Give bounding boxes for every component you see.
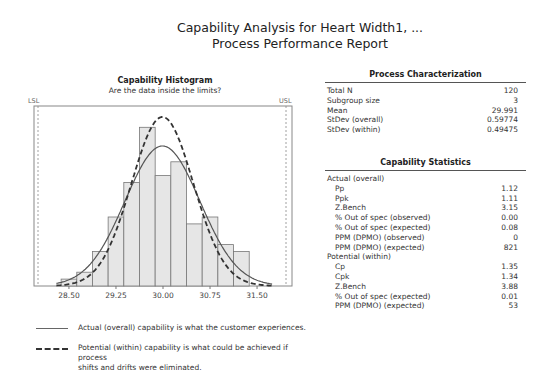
- capability-histogram: LSL USL 28.5029.2530.0030.7531.50: [0, 0, 310, 310]
- stat-label: % Out of spec (observed): [325, 213, 431, 223]
- stat-row: PPM (DPMO) (observed)0: [325, 233, 526, 243]
- stat-row: % Out of spec (expected)0.01: [325, 292, 526, 302]
- actual-overall-header: Actual (overall): [325, 174, 526, 184]
- stat-value: 821: [504, 243, 518, 253]
- legend-potential-text: Potential (within) capability is what co…: [78, 343, 308, 373]
- x-tick-label: 30.00: [152, 291, 174, 300]
- stat-label: PPM (DPMO) (expected): [325, 243, 424, 253]
- stat-row: % Out of spec (expected)0.08: [325, 223, 526, 233]
- stat-label: Pp: [325, 184, 344, 194]
- histogram-bar: [202, 217, 218, 286]
- stat-label: Ppk: [325, 194, 349, 204]
- stat-value: 0.49475: [487, 125, 518, 135]
- stat-label: Subgroup size: [325, 96, 380, 106]
- process-characterization-table: Process Characterization Total N120Subgr…: [325, 70, 526, 135]
- stat-row: Total N120: [325, 86, 526, 96]
- process-characterization-title: Process Characterization: [325, 70, 526, 83]
- legend-actual-text: Actual (overall) capability is what the …: [78, 323, 308, 333]
- stat-row: Cpk1.34: [325, 272, 526, 282]
- stat-row: Ppk1.11: [325, 194, 526, 204]
- histogram-bar: [171, 162, 187, 286]
- histogram-bar: [108, 217, 124, 286]
- stat-value: 0.08: [501, 223, 518, 233]
- stat-label: Mean: [325, 106, 347, 116]
- stat-label: Z.Bench: [325, 203, 366, 213]
- stat-value: 0.59774: [487, 115, 518, 125]
- histogram-bar: [187, 224, 203, 286]
- stat-value: 0.00: [501, 213, 518, 223]
- stat-value: 29.991: [492, 106, 518, 116]
- stat-value: 0.01: [501, 292, 518, 302]
- stat-row: StDev (overall)0.59774: [325, 115, 526, 125]
- histogram-bar: [155, 176, 171, 286]
- stat-value: 1.34: [501, 272, 518, 282]
- histogram-bar: [92, 252, 108, 287]
- stat-row: Pp1.12: [325, 184, 526, 194]
- lsl-label: LSL: [28, 97, 40, 105]
- stat-value: 1.12: [501, 184, 518, 194]
- stat-label: StDev (overall): [325, 115, 383, 125]
- stat-value: 1.11: [501, 194, 518, 204]
- legend-solid-line-icon: [36, 328, 68, 329]
- legend-potential-line2: shifts and drifts were eliminated.: [78, 363, 308, 373]
- stat-label: StDev (within): [325, 125, 381, 135]
- capability-statistics-table: Capability Statistics Actual (overall) P…: [325, 158, 526, 311]
- stat-value: 120: [504, 86, 518, 96]
- stat-label: % Out of spec (expected): [325, 292, 430, 302]
- x-axis-ticks: 28.5029.2530.0030.7531.50: [58, 286, 268, 300]
- stat-label: Z.Bench: [325, 282, 366, 292]
- legend-potential-line1: Potential (within) capability is what co…: [78, 343, 308, 363]
- stat-row: Mean29.991: [325, 106, 526, 116]
- stat-row: Subgroup size3: [325, 96, 526, 106]
- capability-statistics-title: Capability Statistics: [325, 158, 526, 171]
- stat-row: PPM (DPMO) (expected)53: [325, 301, 526, 311]
- stat-row: Cp1.35: [325, 262, 526, 272]
- usl-label: USL: [279, 97, 292, 105]
- x-tick-label: 28.50: [58, 291, 80, 300]
- stat-value: 3.88: [501, 282, 518, 292]
- stat-label: PPM (DPMO) (observed): [325, 233, 424, 243]
- stat-label: Cp: [325, 262, 345, 272]
- legend-dashed-line-icon: [36, 348, 68, 350]
- stat-label: Total N: [325, 86, 353, 96]
- x-tick-label: 31.50: [246, 291, 268, 300]
- stat-row: Z.Bench3.88: [325, 282, 526, 292]
- stat-label: PPM (DPMO) (expected): [325, 301, 424, 311]
- stat-value: 53: [508, 301, 518, 311]
- stat-value: 3.15: [501, 203, 518, 213]
- stat-value: 0: [513, 233, 518, 243]
- histogram-bar: [234, 252, 250, 287]
- stat-label: Cpk: [325, 272, 349, 282]
- stat-row: StDev (within)0.49475: [325, 125, 526, 135]
- potential-within-header: Potential (within): [325, 252, 526, 262]
- stat-row: % Out of spec (observed)0.00: [325, 213, 526, 223]
- stat-row: Z.Bench3.15: [325, 203, 526, 213]
- stat-row: PPM (DPMO) (expected)821: [325, 243, 526, 253]
- stat-label: % Out of spec (expected): [325, 223, 430, 233]
- stat-value: 1.35: [501, 262, 518, 272]
- x-tick-label: 30.75: [199, 291, 221, 300]
- stat-value: 3: [513, 96, 518, 106]
- x-tick-label: 29.25: [105, 291, 127, 300]
